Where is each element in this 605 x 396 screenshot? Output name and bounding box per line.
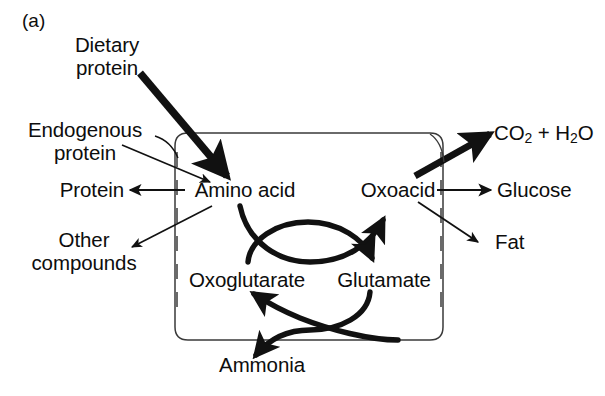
h2o-label-end: O bbox=[578, 121, 594, 144]
co2-label-part1: CO bbox=[494, 121, 525, 144]
edge-ammonia-to-oxoglutarate bbox=[254, 294, 398, 340]
edge-endogenous-protein-to-amino-acid bbox=[122, 145, 210, 182]
edge-oxoglutarate-to-glutamate bbox=[248, 222, 372, 262]
edge-amino-acid-to-other-compounds bbox=[132, 206, 212, 247]
edge-oxoacid-to-fat bbox=[418, 202, 478, 242]
edge-amino-acid-to-oxoacid bbox=[240, 206, 383, 262]
node-co2-h2o: CO2 + H2O bbox=[494, 121, 594, 150]
node-oxoacid: Oxoacid bbox=[361, 178, 436, 201]
co2-label-plus: + H bbox=[532, 121, 570, 144]
edge-oxoacid-to-co2-h2o bbox=[415, 134, 490, 176]
node-glutamate: Glutamate bbox=[337, 268, 431, 291]
node-amino-acid: Amino acid bbox=[195, 178, 295, 201]
panel-label: (a) bbox=[22, 10, 45, 32]
node-protein: Protein bbox=[60, 178, 124, 201]
node-other-compounds-line1: Other bbox=[59, 228, 110, 251]
node-endogenous-protein-line1: Endogenous bbox=[28, 118, 142, 141]
figure-panel-a: (a) Dietary protein Endogenous protein P… bbox=[0, 0, 605, 396]
node-dietary-protein-line1: Dietary bbox=[75, 33, 139, 56]
node-dietary-protein-line2: protein bbox=[76, 56, 138, 79]
node-glucose: Glucose bbox=[497, 178, 572, 201]
node-fat: Fat bbox=[495, 230, 524, 253]
node-ammonia: Ammonia bbox=[219, 353, 305, 376]
node-endogenous-protein-line2: protein bbox=[54, 141, 116, 164]
h2o-subscript: 2 bbox=[570, 130, 578, 146]
node-other-compounds-line2: compounds bbox=[31, 251, 136, 274]
node-oxoglutarate: Oxoglutarate bbox=[189, 268, 305, 291]
edge-dietary-protein-to-amino-acid bbox=[140, 73, 227, 176]
